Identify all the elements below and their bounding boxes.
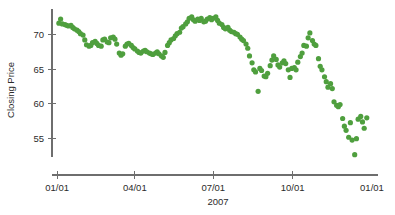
x-tick-label: 07/01	[201, 182, 225, 193]
y-axis-group: 55606570	[33, 9, 56, 156]
data-point	[247, 53, 252, 58]
closing-price-scatter-chart: 55606570 01/0104/0107/0110/0101/01 Closi…	[0, 0, 395, 215]
y-tick-label: 55	[33, 133, 44, 144]
y-tick-label: 65	[33, 64, 44, 75]
data-point	[307, 30, 312, 35]
x-axis-group: 01/0104/0107/0110/0101/01	[45, 171, 384, 193]
data-point	[300, 51, 305, 56]
x-tick-label: 04/01	[123, 182, 147, 193]
x-tick-label: 01/01	[45, 182, 69, 193]
data-point	[253, 69, 258, 74]
data-point	[256, 89, 261, 94]
x-tick-label: 10/01	[281, 182, 305, 193]
data-point	[306, 35, 311, 40]
data-point	[362, 126, 367, 131]
y-tick-label: 60	[33, 98, 44, 109]
y-axis-title: Closing Price	[5, 62, 16, 118]
data-point	[99, 44, 104, 49]
data-point	[268, 63, 273, 68]
data-point	[358, 114, 363, 119]
data-point	[245, 46, 250, 51]
y-tick-group: 55606570	[33, 29, 56, 144]
data-point	[316, 56, 321, 61]
data-point	[343, 128, 348, 133]
data-point	[354, 136, 359, 141]
data-point	[249, 60, 254, 65]
data-point	[58, 16, 63, 21]
data-point	[114, 41, 119, 46]
x-tick-group: 01/0104/0107/0110/0101/01	[45, 171, 384, 193]
data-point	[112, 37, 117, 42]
data-point	[304, 44, 309, 49]
data-point	[274, 57, 279, 62]
data-point	[322, 74, 327, 79]
data-point	[120, 51, 125, 56]
data-point	[328, 81, 333, 86]
data-point	[161, 55, 166, 60]
data-point	[287, 75, 292, 80]
data-point	[360, 119, 365, 124]
x-tick-label: 01/01	[360, 182, 384, 193]
data-point	[106, 40, 111, 45]
data-point	[352, 152, 357, 157]
data-point	[364, 115, 369, 120]
x-axis-title: 2007	[207, 196, 228, 207]
data-point	[313, 43, 318, 48]
data-point	[283, 61, 288, 66]
data-point	[340, 116, 345, 121]
data-point-group	[56, 14, 369, 157]
data-point	[265, 71, 270, 76]
data-point	[330, 86, 335, 91]
data-point	[295, 60, 300, 65]
data-point	[348, 120, 353, 125]
data-point	[162, 50, 167, 55]
data-point	[319, 67, 324, 72]
data-point	[293, 67, 298, 72]
data-point	[259, 68, 264, 73]
data-point	[337, 102, 342, 107]
data-point	[82, 37, 87, 42]
data-point	[80, 32, 85, 37]
y-tick-label: 70	[33, 29, 44, 40]
chart-canvas: 55606570 01/0104/0107/0110/0101/01 Closi…	[0, 0, 395, 215]
